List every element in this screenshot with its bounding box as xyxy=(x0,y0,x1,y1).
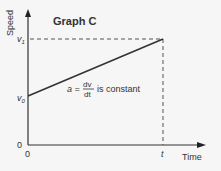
speed-time-graph: Graph C Speed Time v1 v0 0 0 t a = dv dt… xyxy=(0,0,221,171)
svg-text:a =: a = xyxy=(67,84,80,94)
acceleration-annotation: a = dv dt is constant xyxy=(67,80,141,99)
v1-label: v1 xyxy=(17,34,25,45)
speed-line xyxy=(28,39,163,96)
graph-title: Graph C xyxy=(53,15,96,27)
x-axis-label: Time xyxy=(182,152,202,162)
v0-label: v0 xyxy=(17,93,26,104)
svg-text:is constant: is constant xyxy=(97,84,141,94)
y-axis-arrow-icon xyxy=(25,9,31,17)
x-axis-arrow-icon xyxy=(197,142,206,148)
svg-text:dt: dt xyxy=(84,90,91,99)
x-zero-label: 0 xyxy=(25,149,30,159)
y-zero-label: 0 xyxy=(17,140,22,150)
y-axis-label: Speed xyxy=(5,10,15,36)
svg-text:dv: dv xyxy=(83,80,91,89)
t-label: t xyxy=(161,149,164,159)
